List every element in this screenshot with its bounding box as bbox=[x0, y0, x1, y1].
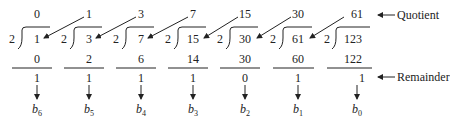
product-5: 60 bbox=[292, 53, 304, 65]
remainder-3: 1 bbox=[190, 72, 196, 84]
remainder-2: 1 bbox=[138, 72, 144, 84]
product-3: 14 bbox=[187, 53, 199, 65]
dividend-2: 7 bbox=[138, 33, 144, 45]
remainder-1: 1 bbox=[86, 72, 92, 84]
divisor-2: 2 bbox=[113, 33, 119, 45]
remainder-label: Remainder bbox=[397, 71, 450, 83]
divisor-5: 2 bbox=[270, 33, 276, 45]
quotient-0: 0 bbox=[34, 8, 40, 20]
dividend-0: 1 bbox=[34, 33, 40, 45]
quotient-1: 1 bbox=[86, 8, 92, 20]
divisor-1: 2 bbox=[61, 33, 67, 45]
quotient-5: 30 bbox=[292, 8, 304, 20]
product-0: 0 bbox=[34, 53, 40, 65]
quotient-3: 7 bbox=[190, 8, 196, 20]
quotient-label: Quotient bbox=[397, 9, 439, 21]
dividend-6: 123 bbox=[344, 33, 362, 45]
dividend-4: 30 bbox=[239, 33, 251, 45]
remainder-5: 1 bbox=[295, 72, 301, 84]
divisor-4: 2 bbox=[217, 33, 223, 45]
quotient-4: 15 bbox=[239, 8, 251, 20]
product-4: 30 bbox=[239, 53, 251, 65]
dividend-3: 15 bbox=[187, 33, 199, 45]
remainder-0: 1 bbox=[34, 72, 40, 84]
dividend-5: 61 bbox=[292, 33, 304, 45]
bit-label-0: b6 bbox=[32, 103, 42, 120]
bit-label-4: b2 bbox=[240, 103, 250, 120]
product-2: 6 bbox=[138, 53, 144, 65]
product-1: 2 bbox=[86, 53, 92, 65]
divisor-3: 2 bbox=[165, 33, 171, 45]
dividend-1: 3 bbox=[86, 33, 92, 45]
divisor-0: 2 bbox=[9, 33, 15, 45]
bit-label-5: b1 bbox=[293, 103, 303, 120]
product-6: 122 bbox=[344, 53, 362, 65]
bit-label-3: b3 bbox=[188, 103, 198, 120]
remainder-6: 1 bbox=[359, 72, 365, 84]
divisor-6: 2 bbox=[324, 33, 330, 45]
quotient-6: 61 bbox=[351, 8, 363, 20]
bit-label-2: b4 bbox=[136, 103, 146, 120]
remainder-4: 0 bbox=[242, 72, 248, 84]
bit-label-6: b0 bbox=[352, 103, 362, 120]
bit-label-1: b5 bbox=[84, 103, 94, 120]
quotient-2: 3 bbox=[138, 8, 144, 20]
